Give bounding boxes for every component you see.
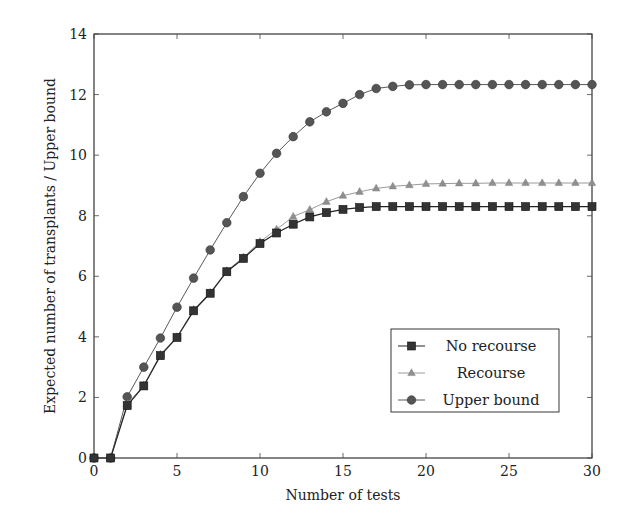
triangle-marker (538, 179, 546, 186)
x-tick-label: 10 (251, 463, 269, 479)
square-marker (455, 203, 463, 211)
circle-marker (339, 99, 348, 108)
triangle-marker (555, 179, 563, 186)
triangle-marker (588, 179, 596, 186)
square-marker (289, 220, 297, 228)
triangle-marker (406, 181, 414, 188)
circle-marker (588, 80, 597, 89)
x-tick-label: 0 (90, 463, 99, 479)
series-recourse (90, 179, 596, 461)
square-marker (356, 204, 364, 212)
triangle-marker (389, 182, 397, 189)
square-marker (389, 203, 397, 211)
x-axis-label: Number of tests (286, 487, 401, 503)
square-marker (273, 229, 281, 237)
triangle-marker (472, 179, 480, 186)
circle-marker (239, 192, 248, 201)
square-marker (472, 203, 480, 211)
square-marker (173, 333, 181, 341)
triangle-marker (505, 179, 513, 186)
circle-marker (521, 80, 530, 89)
circle-marker (272, 149, 281, 158)
square-marker (190, 307, 198, 315)
x-tick-label: 20 (417, 463, 435, 479)
circle-marker (173, 303, 182, 312)
square-marker (571, 203, 579, 211)
square-marker (439, 203, 447, 211)
circle-marker (405, 81, 414, 90)
circle-marker (355, 90, 364, 99)
triangle-marker (572, 179, 580, 186)
circle-marker (488, 80, 497, 89)
square-marker (505, 203, 513, 211)
circle-marker (389, 82, 398, 91)
square-marker (90, 454, 98, 462)
legend: No recourseRecourseUpper bound (391, 329, 559, 412)
y-tick-label: 10 (69, 147, 87, 163)
square-marker (256, 240, 264, 248)
square-marker (123, 402, 131, 410)
triangle-marker (455, 179, 463, 186)
square-marker (206, 289, 214, 297)
square-marker (588, 203, 596, 211)
square-marker (522, 203, 530, 211)
square-marker (239, 254, 247, 262)
square-marker (107, 454, 115, 462)
square-marker (306, 213, 314, 221)
legend-label: Recourse (457, 365, 526, 381)
square-marker (538, 203, 546, 211)
square-marker (405, 203, 413, 211)
triangle-marker (489, 179, 497, 186)
line-chart: 05101520253002468101214 No recourseRecou… (0, 0, 631, 531)
circle-marker (306, 118, 315, 127)
circle-marker (206, 246, 215, 255)
legend-circle-icon (407, 396, 416, 405)
series-line (94, 183, 592, 458)
circle-marker (472, 80, 481, 89)
y-tick-label: 4 (78, 329, 87, 345)
square-marker (339, 205, 347, 213)
circle-marker (289, 132, 298, 141)
circle-marker (189, 274, 198, 283)
circle-marker (455, 80, 464, 89)
y-tick-label: 12 (69, 87, 87, 103)
square-marker (372, 203, 380, 211)
square-marker (223, 268, 231, 276)
square-marker (156, 352, 164, 360)
y-tick-label: 8 (78, 208, 87, 224)
square-marker (422, 203, 430, 211)
circle-marker (538, 80, 547, 89)
square-marker (322, 209, 330, 217)
x-tick-label: 5 (173, 463, 182, 479)
legend-label: No recourse (446, 338, 537, 354)
circle-marker (372, 84, 381, 93)
circle-marker (156, 334, 165, 343)
x-tick-label: 15 (334, 463, 352, 479)
circle-marker (322, 108, 331, 117)
circle-marker (422, 80, 431, 89)
circle-marker (438, 80, 447, 89)
legend-square-icon (408, 342, 416, 350)
y-tick-label: 6 (78, 268, 87, 284)
y-tick-label: 2 (78, 389, 87, 405)
circle-marker (256, 169, 265, 178)
square-marker (488, 203, 496, 211)
x-tick-label: 25 (500, 463, 518, 479)
triangle-marker (422, 180, 430, 187)
circle-marker (223, 218, 232, 227)
circle-marker (571, 80, 580, 89)
triangle-marker (439, 179, 447, 186)
circle-marker (140, 363, 149, 372)
square-marker (555, 203, 563, 211)
circle-marker (505, 80, 514, 89)
y-tick-label: 0 (78, 450, 87, 466)
triangle-marker (522, 179, 530, 186)
y-axis-label: Expected number of transplants / Upper b… (42, 78, 58, 414)
legend-label: Upper bound (443, 392, 540, 408)
square-marker (140, 382, 148, 390)
y-tick-label: 14 (69, 26, 87, 42)
x-tick-label: 30 (583, 463, 601, 479)
circle-marker (555, 80, 564, 89)
